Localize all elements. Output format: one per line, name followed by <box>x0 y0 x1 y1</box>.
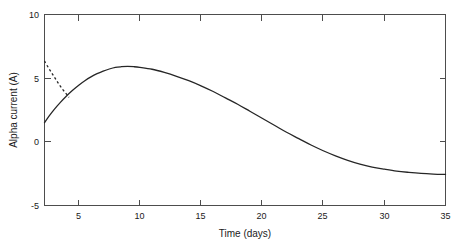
x-tick-labels: 5 10 15 20 25 30 35 <box>76 211 451 221</box>
x-tick-label: 25 <box>317 211 327 221</box>
x-tick-label: 10 <box>134 211 144 221</box>
y-tick-label: 0 <box>34 137 39 147</box>
y-tick-labels: -5 0 5 10 <box>29 10 39 211</box>
y-axis-ticks <box>45 15 51 206</box>
alpha-current-solid-line <box>45 66 446 174</box>
alpha-current-dashed-line <box>45 61 69 97</box>
y-tick-label: 5 <box>34 74 39 84</box>
x-axis-ticks-top <box>79 15 385 21</box>
axes-frame <box>45 15 446 206</box>
figure-canvas: 5 10 15 20 25 30 35 -5 0 5 10 Time (days… <box>0 0 464 248</box>
x-axis-ticks <box>79 200 446 206</box>
x-axis-title: Time (days) <box>219 228 271 239</box>
alpha-current-line-chart: 5 10 15 20 25 30 35 -5 0 5 10 Time (days… <box>0 0 464 248</box>
x-tick-label: 20 <box>256 211 266 221</box>
x-tick-label: 5 <box>76 211 81 221</box>
y-axis-ticks-right <box>440 79 446 142</box>
y-tick-label: -5 <box>31 201 39 211</box>
y-tick-label: 10 <box>29 10 39 20</box>
x-tick-label: 35 <box>440 211 450 221</box>
x-tick-label: 30 <box>379 211 389 221</box>
x-tick-label: 15 <box>195 211 205 221</box>
y-axis-title: Alpha current (A) <box>8 72 19 148</box>
